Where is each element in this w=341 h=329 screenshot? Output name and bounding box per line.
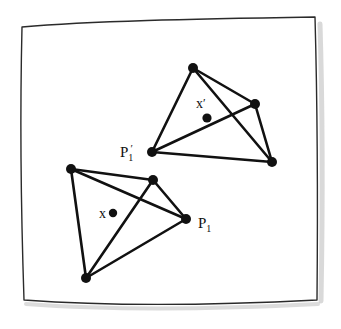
interior-points [109,113,212,217]
vertex-p1-dot [181,214,191,224]
page-shadow-right [320,24,322,301]
figure-container: xx′P1P1′ [0,0,341,329]
vertex-a-prime-dot [188,63,198,73]
target-polygon-edge [152,104,255,152]
source-polygon-edge [86,180,153,278]
label-x: x [99,206,106,221]
vertex-a-dot [66,164,76,174]
source-polygon [66,164,191,283]
label-p1: P1 [198,215,211,234]
label-x-prime: x′ [196,96,206,111]
source-polygon-edge [86,219,186,278]
vertex-b-dot [148,175,158,185]
target-polygon-edge [152,152,272,162]
target-polygon [147,63,277,167]
geometry-figure: xx′P1P1′ [0,0,341,329]
vertex-c-dot [81,273,91,283]
source-polygon-edge [71,169,86,278]
interior-point-x-prime-dot [202,113,211,122]
vertex-b-prime-dot [250,99,260,109]
target-polygon-edge [152,68,193,152]
label-p1-prime-mark: ′ [131,142,133,154]
vertex-c-prime-dot [267,157,277,167]
interior-point-x-dot [109,209,117,217]
vertex-p1-prime-dot [147,147,157,157]
